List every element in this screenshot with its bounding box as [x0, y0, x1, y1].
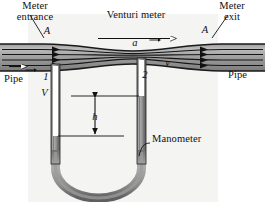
venturi-meter-figure: Meter entrance Venturi meter Meter exit … — [0, 0, 265, 202]
manometer-left-empty — [53, 66, 58, 136]
label-pipe-right: Pipe — [228, 70, 260, 81]
label-area-inlet: A — [41, 26, 53, 37]
label-velocity-inlet: V — [14, 56, 28, 120]
vector-overbar-icon — [25, 67, 37, 73]
pipe-right-body — [222, 44, 265, 71]
vector-overbar-icon-2 — [149, 37, 161, 43]
velocity-inlet-symbol: V — [41, 87, 48, 98]
label-velocity-throat: v — [138, 26, 150, 90]
label-venturi-meter: Venturi meter — [86, 10, 186, 21]
velocity-throat-symbol: v — [165, 57, 170, 68]
label-manometer: Manometer — [152, 134, 230, 145]
label-height-h: h — [88, 112, 102, 123]
label-meter-exit: Meter exit — [203, 1, 261, 22]
label-meter-entrance: Meter entrance — [4, 1, 66, 22]
label-area-outlet: A — [199, 25, 211, 36]
